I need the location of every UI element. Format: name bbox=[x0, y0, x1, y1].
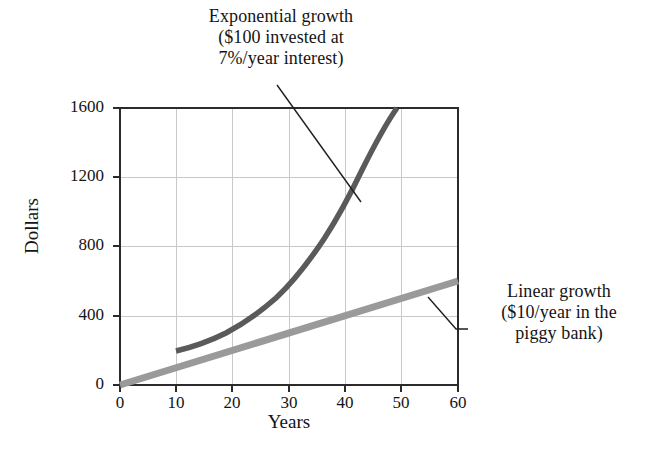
x-axis-label: Years bbox=[229, 411, 349, 433]
series-exponential-growth bbox=[176, 108, 397, 351]
annotation-linear-line-3: piggy bank) bbox=[470, 323, 648, 344]
leader-line-exponential bbox=[277, 85, 361, 202]
x-tick-label-50: 50 bbox=[381, 393, 421, 413]
x-tick-label-10: 10 bbox=[156, 393, 196, 413]
y-tick-label-0: 0 bbox=[44, 374, 104, 394]
y-tick-label-1600: 1600 bbox=[44, 97, 104, 117]
y-tick-label-800: 800 bbox=[44, 235, 104, 255]
x-tick-label-0: 0 bbox=[100, 393, 140, 413]
x-tick-label-20: 20 bbox=[212, 393, 252, 413]
annotation-linear-line-2: ($10/year in the bbox=[470, 302, 648, 323]
x-tick-marks bbox=[120, 385, 458, 392]
y-tick-label-1200: 1200 bbox=[44, 166, 104, 186]
y-tick-label-400: 400 bbox=[44, 305, 104, 325]
y-axis-label: Dollars bbox=[21, 181, 43, 271]
annotation-exponential-line-2: ($100 invested at bbox=[163, 27, 399, 48]
annotation-exponential-growth: Exponential growth ($100 invested at 7%/… bbox=[163, 6, 399, 70]
x-tick-label-40: 40 bbox=[325, 393, 365, 413]
annotation-exponential-line-1: Exponential growth bbox=[163, 6, 399, 27]
x-tick-label-60: 60 bbox=[438, 393, 478, 413]
figure-container: Dollars Years 1600 1200 800 400 0 0 10 2… bbox=[0, 0, 651, 452]
annotation-linear-growth: Linear growth ($10/year in the piggy ban… bbox=[470, 281, 648, 345]
annotation-exponential-line-3: 7%/year interest) bbox=[163, 48, 399, 69]
leader-line-linear bbox=[428, 297, 468, 329]
annotation-linear-line-1: Linear growth bbox=[470, 281, 648, 302]
x-tick-label-30: 30 bbox=[269, 393, 309, 413]
y-tick-marks bbox=[113, 108, 120, 385]
